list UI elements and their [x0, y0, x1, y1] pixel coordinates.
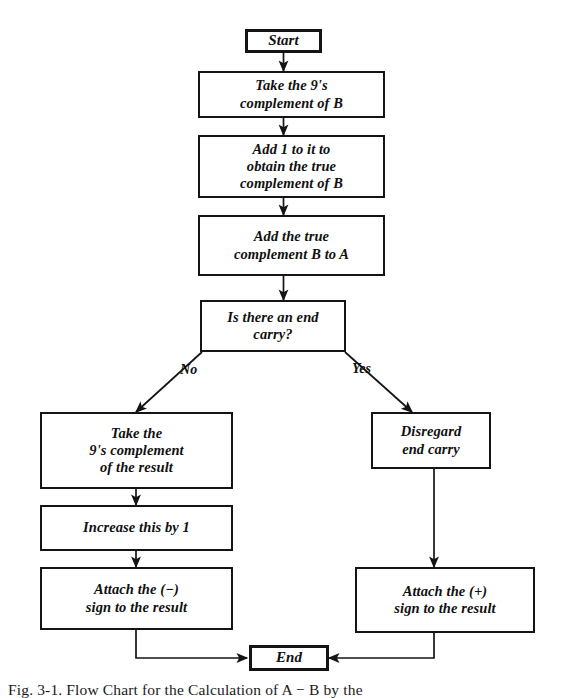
edge-minus-to-end [136, 630, 247, 658]
branch-label-no: No [180, 362, 198, 378]
node-attach-minus-label: Attach the (−) sign to the result [86, 581, 187, 615]
figure-caption: Fig. 3-1. Flow Chart for the Calculation… [8, 681, 570, 698]
node-nines-complement-b-label: Take the 9's complement of B [240, 77, 343, 111]
edge-decision-no [136, 352, 202, 412]
node-attach-minus[interactable]: Attach the (−) sign to the result [40, 567, 233, 630]
edge-plus-to-end [329, 633, 434, 658]
node-add-one[interactable]: Add 1 to it to obtain the true complemen… [198, 135, 385, 198]
node-decision-end-carry-label: Is there an end carry? [206, 309, 340, 343]
node-add-one-label: Add 1 to it to obtain the true complemen… [240, 141, 343, 192]
node-start[interactable]: Start [245, 29, 322, 53]
node-add-true-complement[interactable]: Add the true complement B to A [198, 215, 385, 276]
node-attach-plus-label: Attach the (+) sign to the result [394, 583, 495, 617]
node-decision-end-carry[interactable]: Is there an end carry? [200, 300, 346, 352]
node-disregard-end-carry[interactable]: Disregard end carry [371, 412, 491, 469]
node-nines-complement-b[interactable]: Take the 9's complement of B [198, 71, 385, 118]
node-add-true-complement-label: Add the true complement B to A [234, 228, 349, 262]
node-increase-by-one[interactable]: Increase this by 1 [40, 505, 233, 551]
flowchart-figure: Start Take the 9's complement of B Add 1… [0, 0, 578, 698]
node-disregard-end-carry-label: Disregard end carry [401, 423, 462, 457]
node-take-nines-of-result[interactable]: Take the 9's complement of the result [40, 412, 233, 489]
node-start-label: Start [268, 32, 299, 50]
branch-label-yes: Yes [352, 361, 371, 377]
node-end-label: End [276, 649, 302, 667]
node-take-nines-of-result-label: Take the 9's complement of the result [89, 425, 183, 476]
node-end[interactable]: End [249, 645, 329, 671]
node-increase-by-one-label: Increase this by 1 [83, 519, 190, 536]
node-attach-plus[interactable]: Attach the (+) sign to the result [355, 567, 535, 633]
